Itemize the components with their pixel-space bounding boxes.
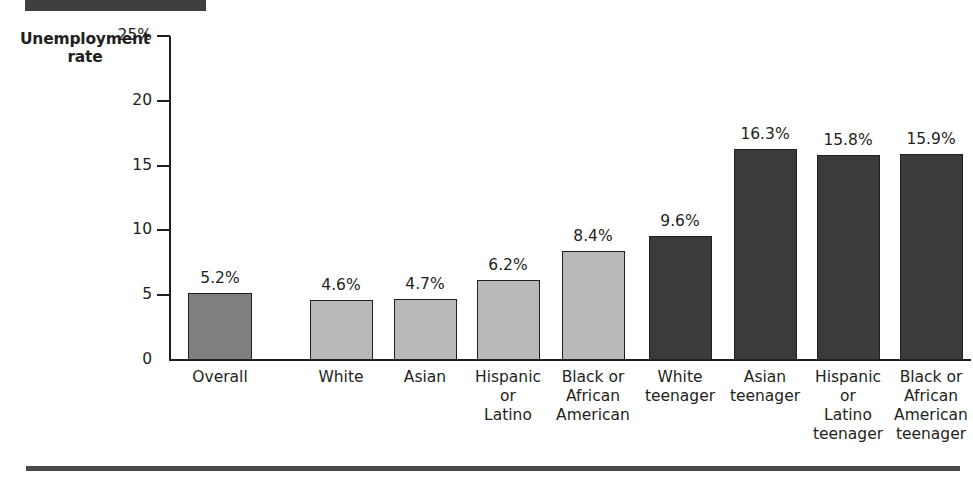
- y-tick-label-15: 15: [92, 157, 152, 173]
- bar-category-line: American: [543, 406, 643, 425]
- bar-value-overall: 5.2%: [175, 270, 265, 287]
- y-tick-mark-15: [157, 165, 170, 167]
- bar-asian-teen: [734, 149, 797, 360]
- bar-value-asian-teen: 16.3%: [720, 126, 810, 143]
- y-tick-mark-20: [157, 100, 170, 102]
- y-tick-label-5: 5: [92, 286, 152, 302]
- y-tick-label-25: 25%: [92, 27, 152, 43]
- unemployment-rate-bar-chart: Unemployment rate 25%20151050 5.2%Overal…: [0, 0, 973, 479]
- bar-category-line: African: [543, 387, 643, 406]
- bar-hispanic-teen: [817, 155, 880, 360]
- y-axis-title-line-2: rate: [10, 48, 160, 66]
- bar-black-teen: [900, 154, 963, 360]
- y-tick-label-0: 0: [92, 351, 152, 367]
- bar-hispanic: [477, 280, 540, 360]
- bar-category-line: American: [881, 406, 973, 425]
- bar-black: [562, 251, 625, 360]
- bar-category-black: Black orAfricanAmerican: [543, 368, 643, 425]
- bar-overall: [188, 293, 252, 360]
- bar-value-black-teen: 15.9%: [886, 131, 973, 148]
- y-tick-mark-5: [157, 294, 170, 296]
- bar-value-white: 4.6%: [296, 277, 386, 294]
- bar-value-black: 8.4%: [548, 228, 638, 245]
- y-axis-line: [169, 36, 171, 361]
- y-tick-label-10: 10: [92, 221, 152, 237]
- bar-value-hispanic-teen: 15.8%: [803, 132, 893, 149]
- bar-category-line: Overall: [170, 368, 270, 387]
- y-tick-mark-10: [157, 229, 170, 231]
- bar-category-line: teenager: [881, 425, 973, 444]
- bar-value-hispanic: 6.2%: [463, 257, 553, 274]
- bar-category-black-teen: Black orAfricanAmericanteenager: [881, 368, 973, 444]
- bar-category-overall: Overall: [170, 368, 270, 387]
- bar-category-line: Black or: [543, 368, 643, 387]
- bar-value-white-teen: 9.6%: [635, 213, 725, 230]
- bar-value-asian: 4.7%: [380, 276, 470, 293]
- bar-white: [310, 300, 373, 360]
- bar-category-line: Black or: [881, 368, 973, 387]
- y-tick-mark-25: [157, 35, 170, 37]
- bar-category-line: African: [881, 387, 973, 406]
- bar-white-teen: [649, 236, 712, 360]
- section-rule-bottom: [26, 466, 960, 471]
- bar-asian: [394, 299, 457, 360]
- y-tick-label-20: 20: [92, 92, 152, 108]
